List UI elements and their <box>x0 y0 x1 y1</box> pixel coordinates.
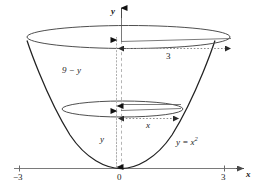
paraboloid-figure: y x −3 0 3 3 x 9 − y y y = x2 <box>0 0 258 189</box>
figure-canvas <box>0 0 258 189</box>
cross-section-radius-label: x <box>146 121 150 130</box>
paraboloid-surface <box>27 26 230 169</box>
x-tick-label-minus3: −3 <box>13 173 23 182</box>
x-tick-label-0: 0 <box>117 173 122 182</box>
curve-equation-text: y = x <box>176 137 195 147</box>
top-rim-ellipse <box>27 26 230 49</box>
lower-height-label: y <box>100 135 104 144</box>
curve-equation-exponent: 2 <box>195 135 198 142</box>
curve-equation-label: y = x2 <box>176 136 198 147</box>
axes-group <box>14 8 244 172</box>
upper-height-label: 9 − y <box>62 66 81 75</box>
top-radius-label: 3 <box>166 52 171 61</box>
cross-radius-tie-line <box>121 109 181 111</box>
construction-lines <box>117 37 122 169</box>
x-axis-label: x <box>246 170 251 179</box>
y-axis-label: y <box>111 7 115 16</box>
x-tick-label-3: 3 <box>221 173 226 182</box>
